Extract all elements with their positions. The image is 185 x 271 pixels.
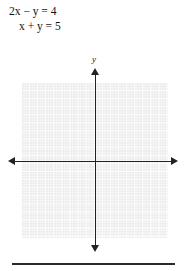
coordinate-graph: y	[0, 0, 185, 271]
bottom-divider	[12, 263, 175, 265]
x-axis-arrow-left-icon	[8, 157, 15, 165]
y-axis-arrow-up-icon	[91, 68, 99, 75]
y-axis-arrow-down-icon	[91, 245, 99, 252]
y-axis-label: y	[92, 54, 96, 64]
x-axis-arrow-right-icon	[171, 157, 178, 165]
y-axis-line	[95, 74, 97, 246]
